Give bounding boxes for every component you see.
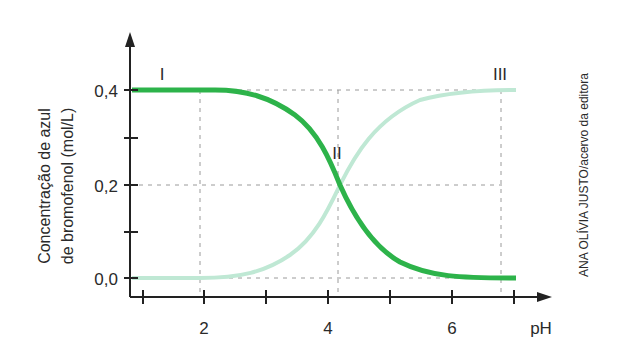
series-basic-form-curve — [132, 90, 516, 278]
x-tick-label: 6 — [447, 319, 456, 338]
x-tick-label: 2 — [199, 319, 208, 338]
series-acidic-form-curve — [132, 90, 516, 278]
y-tick-label: 0,0 — [94, 270, 118, 289]
annotation-III: III — [493, 65, 507, 84]
annotation-II: II — [332, 144, 341, 163]
y-axis-label-line2: de bromofenol (mol/L) — [59, 108, 76, 265]
chart: 0,4 0,2 0,0 2 4 6 pH Concentração de azu… — [0, 0, 629, 357]
y-axis-arrow-icon — [125, 32, 135, 47]
y-tick-label: 0,4 — [94, 82, 118, 101]
reference-grid — [130, 90, 514, 297]
y-tick-label: 0,2 — [94, 177, 118, 196]
y-axis-label: Concentração de azul de bromofenol (mol/… — [36, 108, 76, 265]
annotation-I: I — [160, 65, 165, 84]
image-credit: ANA OLÍVIA JUSTO/acervo da editora — [576, 73, 591, 277]
x-axis-label: pH — [530, 319, 552, 338]
y-axis-label-line1: Concentração de azul — [36, 108, 53, 264]
x-axis-arrow-icon — [537, 292, 552, 302]
x-tick-label: 4 — [323, 319, 332, 338]
